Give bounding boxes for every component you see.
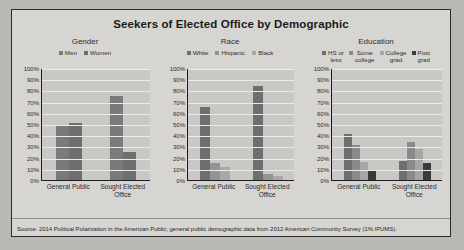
x-axis-labels-gender: General PublicSought Elected Office bbox=[41, 183, 150, 198]
panel-race: Race White Hispanic Black 100%90%80%70%6… bbox=[158, 36, 302, 212]
bar[interactable] bbox=[344, 134, 352, 180]
gridline bbox=[188, 136, 294, 137]
panel-education: Education HS or less Some college Colleg… bbox=[302, 36, 450, 212]
gridline bbox=[332, 170, 442, 171]
gridline bbox=[42, 170, 150, 171]
legend-item[interactable]: Some college bbox=[349, 49, 375, 63]
y-axis-tick: 10% bbox=[173, 167, 185, 173]
bar[interactable] bbox=[210, 163, 220, 180]
gridline bbox=[188, 103, 294, 104]
y-axis-tick: 10% bbox=[27, 167, 39, 173]
gridline bbox=[332, 91, 442, 92]
plot-area-education: 100%90%80%70%60%50%40%30%20%10%0% Genera… bbox=[302, 69, 450, 212]
plot-race bbox=[187, 69, 294, 181]
bar[interactable] bbox=[69, 123, 82, 180]
chart-frame: Seekers of Elected Office by Demographic… bbox=[11, 9, 451, 237]
plot-area-race: 100%90%80%70%60%50%40%30%20%10%0% Genera… bbox=[158, 69, 302, 212]
y-axis-tick: 40% bbox=[173, 133, 185, 139]
x-axis-labels-race: General PublicSought Elected Office bbox=[187, 183, 294, 198]
y-axis-tick: 100% bbox=[170, 66, 185, 72]
bar[interactable] bbox=[253, 86, 263, 180]
bar[interactable] bbox=[123, 152, 136, 180]
gridline bbox=[332, 136, 442, 137]
y-axis-tick: 0% bbox=[176, 178, 185, 184]
y-axis-tick: 50% bbox=[317, 122, 329, 128]
gridline bbox=[42, 69, 150, 70]
legend-swatch-icon bbox=[84, 51, 88, 55]
legend-label: Women bbox=[90, 49, 111, 56]
plot-education bbox=[331, 69, 442, 181]
source-divider bbox=[12, 218, 450, 219]
y-axis-tick: 90% bbox=[27, 77, 39, 83]
y-axis-race: 100%90%80%70%60%50%40%30%20%10%0% bbox=[164, 69, 186, 181]
legend-label: Hispanic bbox=[221, 49, 245, 56]
gridline bbox=[188, 91, 294, 92]
y-axis-tick: 40% bbox=[317, 133, 329, 139]
bar[interactable] bbox=[415, 149, 423, 180]
legend-race: White Hispanic Black bbox=[158, 49, 302, 67]
bar[interactable] bbox=[273, 176, 283, 180]
legend-item[interactable]: White bbox=[187, 49, 209, 56]
legend-item[interactable]: Hispanic bbox=[215, 49, 245, 56]
bar[interactable] bbox=[263, 174, 273, 180]
y-axis-tick: 60% bbox=[173, 111, 185, 117]
bar[interactable] bbox=[423, 163, 431, 180]
gridline bbox=[188, 69, 294, 70]
y-axis-tick: 0% bbox=[320, 178, 329, 184]
legend-swatch-icon bbox=[59, 51, 63, 55]
y-axis-tick: 30% bbox=[27, 144, 39, 150]
panel-title-education: Education bbox=[302, 36, 450, 47]
gridline bbox=[42, 91, 150, 92]
legend-label: White bbox=[193, 49, 209, 56]
y-axis-tick: 60% bbox=[317, 111, 329, 117]
legend-swatch-icon bbox=[252, 51, 256, 55]
gridline bbox=[42, 103, 150, 104]
panel-gender: Gender Men Women 100%90%80%70%60%50%40%3… bbox=[12, 36, 158, 212]
legend-swatch-icon bbox=[412, 51, 416, 55]
plot-area-gender: 100%90%80%70%60%50%40%30%20%10%0% Genera… bbox=[12, 69, 158, 212]
bar[interactable] bbox=[360, 162, 368, 180]
bar[interactable] bbox=[220, 167, 230, 180]
y-axis-gender: 100%90%80%70%60%50%40%30%20%10%0% bbox=[18, 69, 40, 181]
y-axis-tick: 50% bbox=[173, 122, 185, 128]
legend-swatch-icon bbox=[380, 51, 384, 55]
y-axis-tick: 10% bbox=[317, 167, 329, 173]
legend-item[interactable]: Women bbox=[84, 49, 111, 56]
legend-item[interactable]: Post grad bbox=[412, 49, 430, 63]
y-axis-tick: 40% bbox=[27, 133, 39, 139]
bar[interactable] bbox=[352, 145, 360, 180]
gridline bbox=[42, 159, 150, 160]
y-axis-tick: 60% bbox=[27, 111, 39, 117]
legend-label: College grad bbox=[386, 49, 407, 63]
source-note: Source: 2014 Political Polarization in t… bbox=[17, 225, 446, 234]
gridline bbox=[42, 125, 150, 126]
panel-title-race: Race bbox=[158, 36, 302, 47]
legend-label: HS or less bbox=[328, 49, 344, 63]
legend-item[interactable]: Black bbox=[252, 49, 273, 56]
bar[interactable] bbox=[110, 96, 123, 180]
plot-gender bbox=[41, 69, 150, 181]
y-axis-tick: 70% bbox=[173, 100, 185, 106]
legend-swatch-icon bbox=[215, 51, 219, 55]
legend-swatch-icon bbox=[349, 51, 353, 55]
legend-item[interactable]: Men bbox=[59, 49, 77, 56]
bar[interactable] bbox=[56, 125, 69, 180]
x-axis-labels-education: General PublicSought Elected Office bbox=[331, 183, 442, 198]
legend-item[interactable]: HS or less bbox=[322, 49, 344, 63]
gridline bbox=[42, 114, 150, 115]
legend-item[interactable]: College grad bbox=[380, 49, 407, 63]
gridline bbox=[188, 170, 294, 171]
legend-gender: Men Women bbox=[12, 49, 158, 67]
gridline bbox=[188, 114, 294, 115]
y-axis-tick: 90% bbox=[317, 77, 329, 83]
y-axis-tick: 70% bbox=[27, 100, 39, 106]
legend-label: Black bbox=[258, 49, 273, 56]
y-axis-tick: 80% bbox=[27, 88, 39, 94]
gridline bbox=[332, 159, 442, 160]
legend-swatch-icon bbox=[187, 51, 191, 55]
legend-swatch-icon bbox=[322, 51, 326, 55]
y-axis-education: 100%90%80%70%60%50%40%30%20%10%0% bbox=[308, 69, 330, 181]
y-axis-tick: 70% bbox=[317, 100, 329, 106]
bar[interactable] bbox=[368, 170, 376, 180]
gridline bbox=[332, 125, 442, 126]
